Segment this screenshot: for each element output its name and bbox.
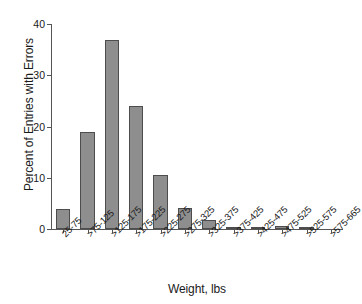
y-tick-label: 30 (33, 70, 45, 81)
y-tick-label: 10 (33, 173, 45, 184)
bar (105, 40, 120, 229)
y-tick-label: 40 (33, 19, 45, 30)
bars-container (51, 24, 343, 229)
y-tick-label: 0 (39, 224, 45, 235)
bar (80, 132, 95, 229)
plot-area: 010203040 (51, 24, 343, 229)
x-axis-title: Weight, lbs (51, 282, 343, 296)
y-tick-mark (47, 229, 51, 230)
y-tick-label: 20 (33, 121, 45, 132)
y-axis-title: Percent of Entries with Errors (20, 0, 38, 229)
x-axis-tick-labels: 25-75>75-125>125-175>175-225>225-275>275… (51, 232, 343, 278)
